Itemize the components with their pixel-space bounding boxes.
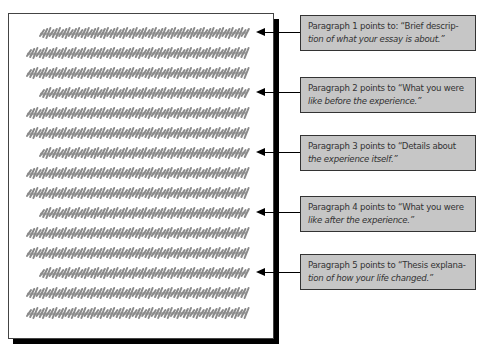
scribble-line xyxy=(40,28,249,38)
scribble-line xyxy=(40,148,249,158)
scribble-line xyxy=(40,208,249,218)
callout-paragraph-5: Paragraph 5 points to “Thesis explana- t… xyxy=(300,254,476,290)
callout-2-line-2: like before the experience.” xyxy=(308,95,468,108)
callout-paragraph-2: Paragraph 2 points to “What you were lik… xyxy=(300,77,476,113)
scribble-line xyxy=(27,168,249,178)
callout-5-line-1: Paragraph 5 points to “Thesis explana- xyxy=(308,259,468,272)
callout-5-line-2: tion of how your life changed.” xyxy=(308,272,468,285)
callout-1-line-1: Paragraph 1 points to: “Brief descrip- xyxy=(308,20,468,33)
scribble-line xyxy=(27,308,249,318)
scribble-line xyxy=(40,88,249,98)
callout-4-line-2: like after the experience.” xyxy=(308,214,468,227)
callout-1-line-2: tion of what your essay is about.” xyxy=(308,33,468,46)
scribble-text-lines xyxy=(0,0,486,349)
scribble-line xyxy=(27,228,249,238)
scribble-line xyxy=(27,68,249,78)
callout-4-line-1: Paragraph 4 points to “What you were xyxy=(308,201,468,214)
scribble-line xyxy=(27,288,249,298)
callout-3-line-2: the experience itself.” xyxy=(308,153,468,166)
scribble-line xyxy=(27,128,249,138)
callout-paragraph-1: Paragraph 1 points to: “Brief descrip- t… xyxy=(300,15,476,51)
callout-3-line-1: Paragraph 3 points to “Details about xyxy=(308,140,468,153)
connector-spine xyxy=(274,19,279,339)
scribble-line xyxy=(27,188,249,198)
scribble-line xyxy=(40,268,249,278)
scribble-line xyxy=(27,248,249,258)
callout-paragraph-3: Paragraph 3 points to “Details about the… xyxy=(300,135,476,171)
scribble-line xyxy=(27,108,249,118)
callout-2-line-1: Paragraph 2 points to “What you were xyxy=(308,82,468,95)
callout-paragraph-4: Paragraph 4 points to “What you were lik… xyxy=(300,196,476,232)
scribble-line xyxy=(27,48,249,58)
